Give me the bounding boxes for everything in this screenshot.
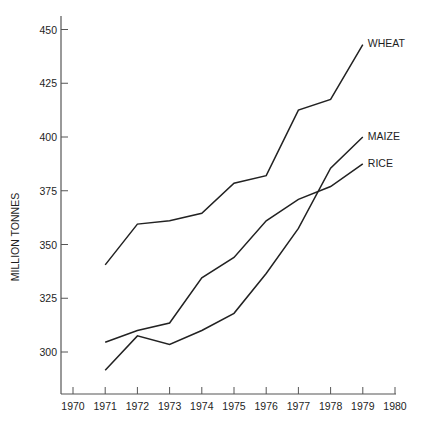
y-tick-label: 300 bbox=[39, 346, 57, 358]
x-tick-label: 1974 bbox=[190, 400, 214, 412]
series-label-wheat: WHEAT bbox=[368, 37, 406, 49]
y-tick-label: 400 bbox=[39, 131, 57, 143]
y-axis-title: MILLION TONNES bbox=[9, 193, 21, 281]
y-tick-label: 350 bbox=[39, 239, 57, 251]
series-line-rice bbox=[105, 164, 363, 342]
series-label-rice: RICE bbox=[368, 157, 393, 169]
y-tick-label: 425 bbox=[39, 77, 57, 89]
production-line-chart: MILLION TONNES 300325350375400425450 197… bbox=[0, 0, 427, 429]
x-tick-label: 1977 bbox=[287, 400, 311, 412]
chart-svg: MILLION TONNES 300325350375400425450 197… bbox=[0, 0, 427, 429]
series-labels: WHEATMAIZERICE bbox=[368, 37, 406, 169]
y-ticks: 300325350375400425450 bbox=[39, 24, 68, 359]
x-tick-label: 1976 bbox=[255, 400, 279, 412]
x-tick-label: 1980 bbox=[383, 400, 407, 412]
x-tick-label: 1973 bbox=[158, 400, 182, 412]
series-line-maize bbox=[105, 137, 363, 370]
x-tick-label: 1971 bbox=[94, 400, 118, 412]
y-tick-label: 325 bbox=[39, 292, 57, 304]
x-tick-label: 1970 bbox=[61, 400, 85, 412]
x-tick-label: 1978 bbox=[319, 400, 343, 412]
y-tick-label: 375 bbox=[39, 185, 57, 197]
y-axis-label: MILLION TONNES bbox=[9, 193, 21, 281]
x-ticks: 1970197119721973197419751976197719781979… bbox=[61, 387, 407, 412]
x-tick-label: 1979 bbox=[351, 400, 375, 412]
x-tick-label: 1975 bbox=[222, 400, 246, 412]
series-label-maize: MAIZE bbox=[368, 130, 400, 142]
series-lines bbox=[105, 45, 363, 371]
y-tick-label: 450 bbox=[39, 24, 57, 36]
x-tick-label: 1972 bbox=[126, 400, 150, 412]
series-line-wheat bbox=[105, 45, 363, 265]
